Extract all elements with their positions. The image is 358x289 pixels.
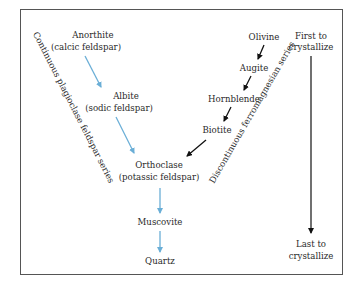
mineral-augite: Augite (240, 63, 269, 73)
mineral-olivine: Olivine (249, 32, 280, 42)
mineral-orthoclase-note: (potassic feldspar) (119, 172, 200, 182)
mineral-muscovite: Muscovite (138, 217, 183, 227)
mineral-albite-note: (sodic feldspar) (85, 103, 153, 113)
mineral-anorthite: Anorthite (72, 30, 113, 40)
arrow-hornblende-to-biotite (224, 107, 231, 121)
first-to-crystallize-line2: crystallize (289, 42, 334, 52)
arrow-olivine-to-augite (258, 45, 264, 59)
arrow-anorthite-to-albite (85, 56, 101, 87)
arrow-augite-to-hornblende (244, 76, 251, 90)
arrow-albite-to-orthoclase (116, 117, 134, 153)
arrow-biotite-to-orthoclase (187, 140, 206, 156)
mineral-orthoclase: Orthoclase (135, 160, 183, 170)
last-to-crystallize-line2: crystallize (289, 251, 334, 261)
mineral-anorthite-note: (calcic feldspar) (51, 42, 121, 52)
mineral-biotite: Biotite (203, 125, 232, 135)
mineral-quartz: Quartz (145, 256, 175, 266)
bowen-reaction-series-diagram: Anorthite (calcic feldspar) Albite (sodi… (0, 0, 358, 289)
first-to-crystallize-line1: First to (295, 31, 327, 41)
mineral-albite: Albite (113, 91, 139, 101)
last-to-crystallize-line1: Last to (296, 239, 326, 249)
